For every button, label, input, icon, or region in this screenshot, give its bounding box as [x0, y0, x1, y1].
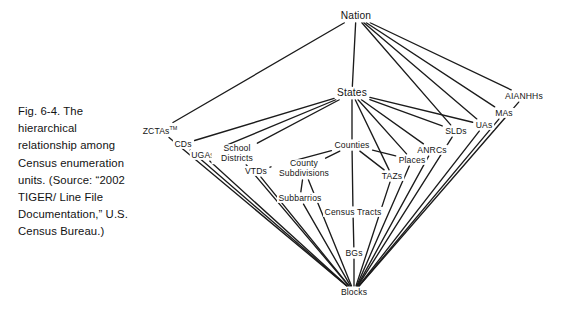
node-census-tracts: Census Tracts [323, 207, 383, 217]
edge-school-districts-to-blocks [246, 165, 349, 286]
node-anrcs: ANRCs [416, 145, 448, 155]
node-label: BGs [345, 248, 362, 258]
node-county-subdivisions: County Subdivisions [272, 159, 337, 179]
edge-census-tracts-to-bgs [353, 218, 354, 247]
node-label: ANRCs [417, 145, 446, 155]
node-counties: Counties [333, 140, 371, 150]
node-slds: SLDs [444, 126, 469, 136]
node-bgs: BGs [344, 248, 364, 258]
node-label: SLDs [445, 126, 467, 136]
node-label: County Subdivisions [279, 158, 329, 178]
edge-counties-to-places [373, 150, 396, 156]
node-tazs: TAZs [380, 171, 404, 181]
node-label: Subbarrios [278, 193, 321, 203]
node-label: Counties [334, 140, 369, 150]
node-subbarrios: Subbarrios [277, 193, 323, 203]
node-label: Places [399, 155, 426, 165]
edge-nation-to-uas [364, 23, 477, 119]
node-label: CDs [174, 139, 191, 149]
edge-places-to-blocks [357, 166, 410, 286]
node-label: UAs [476, 120, 493, 130]
edge-states-to-tazs [355, 100, 389, 170]
node-states: States [336, 87, 369, 99]
node-mas: MAs [494, 108, 515, 118]
edge-aianhhs-to-blocks [359, 102, 518, 286]
edge-states-to-ugas [218, 100, 336, 149]
node-cds: CDs [173, 139, 193, 149]
figure-page: Fig. 6-4. The hierarchical relationship … [0, 0, 570, 317]
node-label: Blocks [341, 287, 367, 297]
node-label: MAs [495, 108, 513, 118]
trademark-mark: TM [170, 125, 178, 131]
edge-states-to-cds [195, 98, 335, 140]
edge-counties-to-tazs [360, 151, 384, 170]
edge-county-subdivisions-to-subbarrios [301, 180, 303, 192]
edge-nation-to-mas [366, 23, 494, 107]
node-label: ZCTAs [143, 126, 170, 136]
node-label: States [337, 87, 367, 98]
node-uas: UAs [474, 120, 494, 130]
node-label: TAZs [382, 171, 403, 181]
node-vtds: VTDs [243, 166, 268, 176]
edge-nation-to-states [352, 23, 355, 87]
node-school-districts: School Districts [212, 144, 263, 164]
node-label: Census Tracts [325, 207, 382, 217]
node-nation: Nation [339, 10, 372, 22]
node-label: Nation [341, 10, 371, 21]
node-zctas: ZCTAsTM [141, 123, 179, 136]
edge-counties-to-census-tracts [352, 151, 353, 206]
node-label: School Districts [221, 143, 253, 163]
node-places: Places [397, 155, 427, 165]
hierarchy-diagram: NationStatesZCTAsTMCDsUGAsSchool Distric… [0, 0, 570, 317]
node-aianhhs: AIANHHs [504, 91, 545, 101]
node-blocks: Blocks [339, 287, 368, 297]
edge-states-to-school-districts [257, 100, 339, 143]
node-label: AIANHHs [505, 91, 543, 101]
node-label: VTDs [245, 166, 267, 176]
